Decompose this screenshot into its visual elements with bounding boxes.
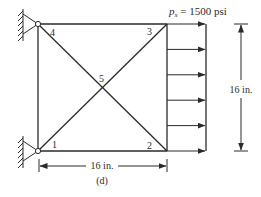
- node-label-4: 4: [50, 27, 55, 38]
- load-label: px = 1500 psi: [168, 5, 227, 19]
- node-1-pin: [35, 148, 40, 153]
- figure-caption: (d): [96, 175, 108, 187]
- load-arrows: [167, 24, 205, 151]
- wall-bottom-support: [18, 136, 23, 168]
- node-label-3: 3: [147, 26, 152, 37]
- truss-diagram: 4 3 5 1 2 px = 1500 psi 16 in. 16 in. (d…: [0, 0, 261, 197]
- node-label-2: 2: [147, 140, 152, 151]
- node-label-5: 5: [99, 73, 104, 84]
- node-label-1: 1: [52, 139, 57, 150]
- load-value: = 1500 psi: [178, 5, 227, 17]
- width-dimension-label: 16 in.: [91, 160, 114, 171]
- height-dimension-label: 16 in.: [230, 84, 253, 95]
- node-4-pin: [35, 21, 40, 26]
- wall-top-support: [18, 9, 23, 41]
